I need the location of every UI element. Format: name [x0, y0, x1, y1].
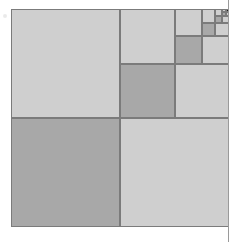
fractal-root-square	[11, 9, 229, 227]
fractal-outer-frame	[11, 9, 229, 227]
page-border-rule	[228, 0, 229, 242]
figure-canvas	[0, 0, 234, 242]
scan-artifact-speck	[3, 14, 7, 18]
